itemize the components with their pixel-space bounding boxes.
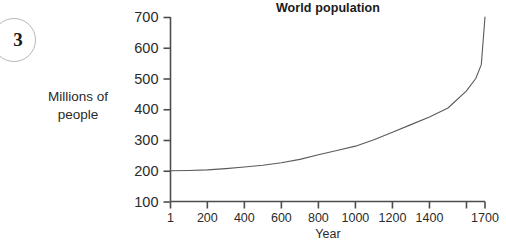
- y-tick-label: 600: [134, 40, 158, 56]
- y-tick-label: 200: [134, 163, 158, 179]
- x-tick-label: 200: [197, 211, 218, 225]
- x-tick-label: 1000: [342, 211, 370, 225]
- x-tick-label: 600: [271, 211, 292, 225]
- y-tick-label: 700: [134, 9, 158, 25]
- y-tick-label: 400: [134, 101, 158, 117]
- data-series-line: [171, 17, 486, 171]
- x-tick-mark-group: [171, 202, 486, 209]
- y-tick-mark-group: [164, 18, 171, 203]
- chart-page: 3 Millions of people World population 10…: [0, 0, 506, 247]
- line-chart-plot: 100200300400500600700 120040060080010001…: [0, 0, 506, 247]
- x-tick-label-group: 12004006008001000120014001700: [167, 211, 499, 225]
- y-tick-label: 100: [134, 194, 158, 210]
- x-axis-title: Year: [170, 227, 486, 241]
- x-tick-label: 800: [308, 211, 329, 225]
- x-tick-label: 1400: [416, 211, 444, 225]
- x-tick-label: 1200: [379, 211, 407, 225]
- y-tick-label-group: 100200300400500600700: [134, 9, 158, 210]
- y-tick-label: 300: [134, 132, 158, 148]
- y-tick-label: 500: [134, 71, 158, 87]
- x-tick-label: 400: [234, 211, 255, 225]
- x-tick-label: 1: [167, 211, 174, 225]
- x-tick-label: 1700: [471, 211, 499, 225]
